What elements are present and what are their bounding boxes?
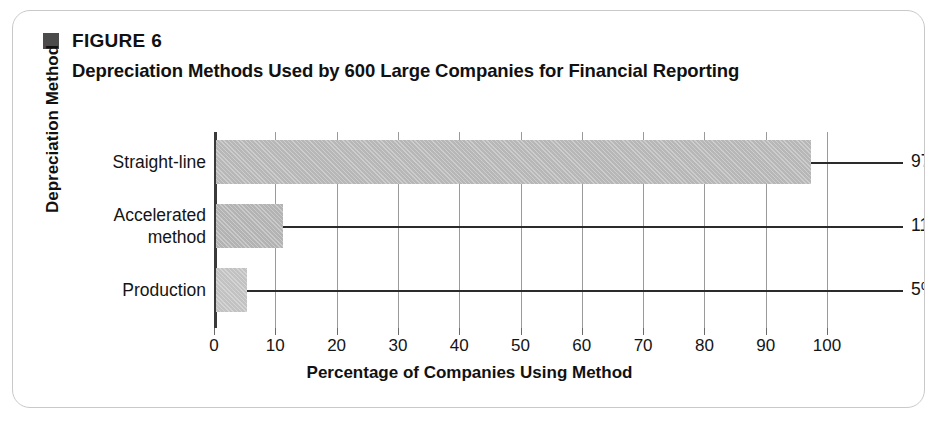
tick-mark bbox=[337, 328, 338, 335]
x-tick-label: 20 bbox=[313, 336, 361, 356]
tick-mark bbox=[643, 328, 644, 335]
figure-title: Depreciation Methods Used by 600 Large C… bbox=[72, 60, 893, 82]
tick-mark bbox=[766, 328, 767, 335]
plot-area: 0102030405060708090100 97%11%5% bbox=[214, 132, 839, 328]
x-tick-label: 60 bbox=[558, 336, 606, 356]
x-tick-label: 70 bbox=[619, 336, 667, 356]
leader-line bbox=[247, 290, 903, 292]
tick-mark bbox=[704, 328, 705, 335]
x-tick-label: 100 bbox=[803, 336, 851, 356]
value-label: 5% bbox=[911, 279, 925, 300]
figure-number-row: FIGURE 6 bbox=[43, 29, 893, 53]
x-tick-label: 30 bbox=[374, 336, 422, 356]
category-axis-labels: Straight-lineAccelerated methodProductio… bbox=[73, 132, 206, 328]
x-tick-label: 0 bbox=[190, 336, 238, 356]
bar bbox=[216, 204, 283, 248]
bar bbox=[216, 140, 811, 184]
category-label: Straight-line bbox=[113, 151, 206, 173]
tick-mark bbox=[214, 328, 215, 335]
x-tick-label: 50 bbox=[497, 336, 545, 356]
leader-line bbox=[811, 162, 903, 164]
value-label: 11% bbox=[911, 215, 925, 236]
value-label: 97% bbox=[911, 151, 925, 172]
tick-mark bbox=[521, 328, 522, 335]
tick-mark bbox=[398, 328, 399, 335]
leader-line bbox=[283, 226, 903, 228]
figure-header: FIGURE 6 Depreciation Methods Used by 60… bbox=[43, 29, 893, 82]
category-label: Production bbox=[122, 279, 206, 301]
x-tick-label: 10 bbox=[251, 336, 299, 356]
category-label: Accelerated method bbox=[114, 204, 206, 248]
tick-mark bbox=[275, 328, 276, 335]
bar bbox=[216, 268, 247, 312]
tick-mark bbox=[582, 328, 583, 335]
x-tick-label: 90 bbox=[742, 336, 790, 356]
x-tick-label: 80 bbox=[680, 336, 728, 356]
tick-mark bbox=[827, 328, 828, 335]
x-tick-label: 40 bbox=[435, 336, 483, 356]
x-axis-title: Percentage of Companies Using Method bbox=[13, 363, 925, 383]
figure-card: FIGURE 6 Depreciation Methods Used by 60… bbox=[12, 10, 925, 408]
y-axis-title: Depreciation Method bbox=[43, 29, 63, 229]
tick-mark bbox=[459, 328, 460, 335]
figure-number: FIGURE 6 bbox=[72, 30, 162, 52]
